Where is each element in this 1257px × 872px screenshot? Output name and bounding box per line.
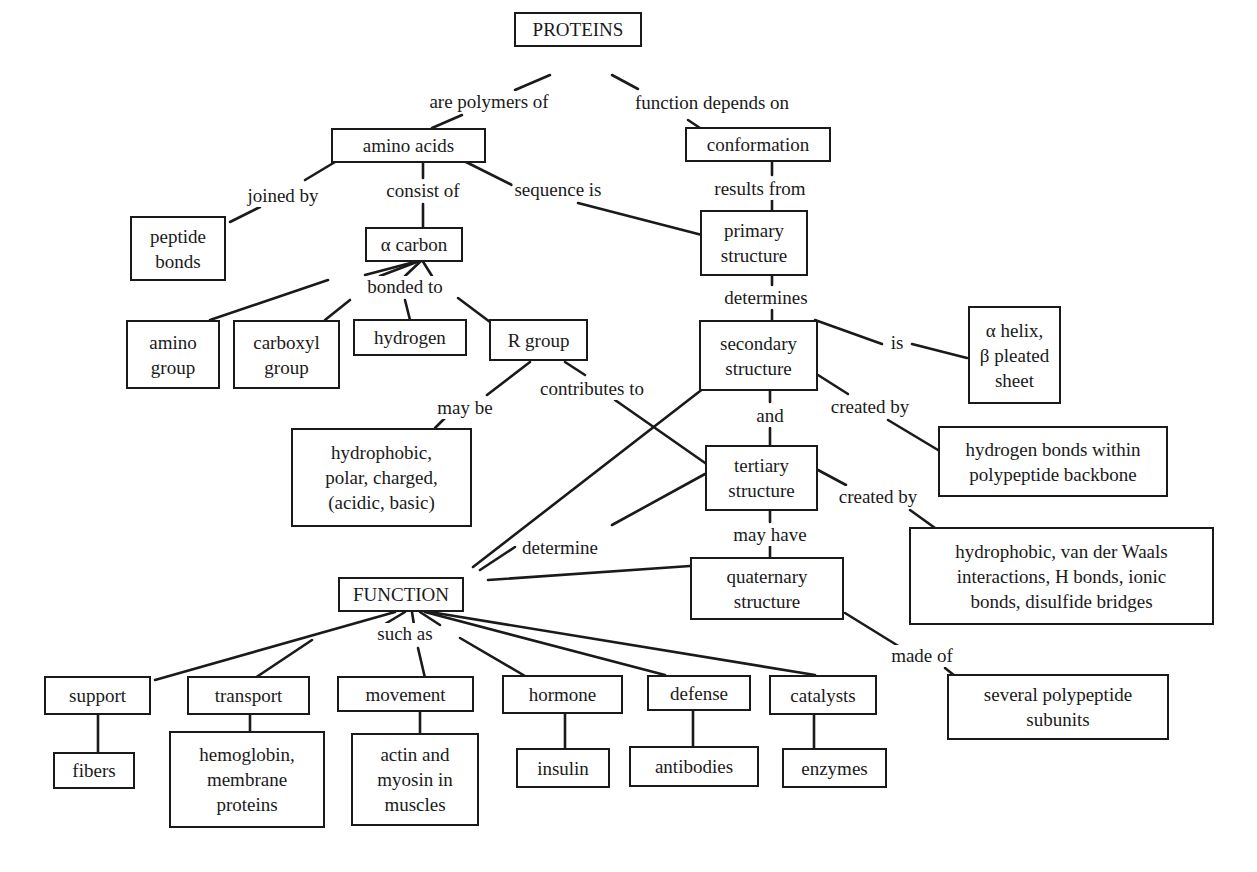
label-function-depends-on: function depends on [633, 92, 791, 114]
node-hemoglobin: hemoglobin, membrane proteins [169, 731, 325, 828]
label-created-by-secondary: created by [829, 396, 912, 418]
node-proteins: PROTEINS [514, 12, 642, 47]
node-hydrogen: hydrogen [353, 319, 467, 356]
node-quaternary-structure: quaternary structure [690, 557, 844, 620]
label-and: and [754, 405, 785, 427]
label-contributes-to: contributes to [538, 378, 646, 400]
node-insulin: insulin [516, 748, 610, 788]
node-amino-acids: amino acids [331, 128, 486, 163]
node-antibodies: antibodies [629, 746, 759, 787]
label-such-as: such as [375, 623, 434, 645]
label-may-be: may be [435, 397, 494, 419]
node-support: support [44, 676, 151, 715]
label-results-from: results from [712, 178, 807, 200]
node-enzymes: enzymes [782, 748, 887, 788]
node-function: FUNCTION [338, 577, 464, 612]
node-movement: movement [337, 676, 474, 712]
node-defense: defense [647, 675, 751, 711]
node-carboxyl-group: carboxyl group [233, 320, 340, 389]
node-secondary-structure: secondary structure [699, 320, 818, 391]
node-peptide-bonds: peptide bonds [130, 216, 226, 281]
label-made-of: made of [889, 645, 955, 667]
node-hormone: hormone [502, 675, 623, 714]
node-transport: transport [187, 676, 310, 715]
node-fibers: fibers [53, 752, 135, 789]
node-catalysts: catalysts [769, 675, 877, 715]
label-sequence-is: sequence is [512, 179, 603, 201]
node-helix-sheet: α helix, β pleated sheet [968, 306, 1061, 404]
node-r-group-types: hydrophobic, polar, charged, (acidic, ba… [291, 428, 472, 527]
label-consist-of: consist of [384, 180, 461, 202]
node-polypeptide-subunits: several polypeptide subunits [947, 674, 1169, 740]
concept-map: PROTEINS amino acids conformation peptid… [0, 0, 1257, 872]
node-conformation: conformation [685, 127, 831, 162]
label-is: is [889, 332, 906, 354]
label-are-polymers-of: are polymers of [427, 91, 550, 113]
node-alpha-carbon: α carbon [365, 227, 463, 262]
label-bonded-to: bonded to [365, 276, 444, 298]
node-amino-group: amino group [126, 320, 220, 389]
node-hydrogen-bonds-backbone: hydrogen bonds within polypeptide backbo… [938, 426, 1168, 497]
label-may-have: may have [731, 524, 808, 546]
label-created-by-tertiary: created by [837, 486, 920, 508]
node-primary-structure: primary structure [700, 210, 808, 276]
label-determine: determine [520, 537, 600, 559]
node-tertiary-bonds: hydrophobic, van der Waals interactions,… [909, 527, 1214, 625]
node-actin-myosin: actin and myosin in muscles [351, 733, 479, 826]
label-determines: determines [722, 287, 809, 309]
label-joined-by: joined by [245, 185, 320, 207]
node-r-group: R group [489, 319, 588, 361]
node-tertiary-structure: tertiary structure [705, 445, 818, 511]
